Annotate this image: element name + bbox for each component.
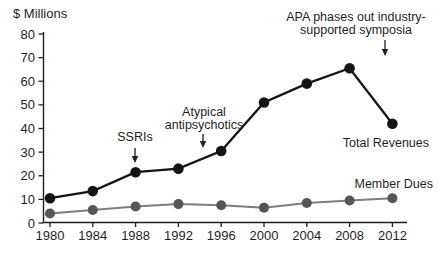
annotation-apa-arrowhead-icon (382, 49, 388, 56)
data-point-total-revenues-1980 (45, 193, 56, 204)
annotation-atypical-text: Atypical (182, 105, 226, 119)
series-label-member-dues: Member Dues (355, 177, 434, 191)
x-tick-label: 2004 (292, 228, 321, 243)
x-tick-label: 1984 (78, 228, 107, 243)
x-tick-label: 2008 (335, 228, 364, 243)
y-axis: 01020304050607080 (21, 27, 44, 231)
y-tick-label: 80 (21, 27, 35, 42)
data-point-member-dues-2000 (259, 203, 269, 213)
y-tick-label: 0 (28, 216, 35, 231)
annotation-ssris-text: SSRIs (117, 130, 152, 144)
data-point-member-dues-1992 (173, 199, 183, 209)
y-axis-title: $ Millions (13, 6, 68, 21)
data-point-member-dues-1996 (216, 200, 226, 210)
x-tick-label: 1996 (207, 228, 236, 243)
y-tick-label: 60 (21, 74, 35, 89)
x-tick-label: 1980 (36, 228, 65, 243)
y-tick-label: 30 (21, 145, 35, 160)
data-point-total-revenues-2008 (344, 63, 355, 74)
y-tick-label: 20 (21, 168, 35, 183)
annotation-apa-text: supported symposia (300, 23, 412, 37)
x-tick-label: 2012 (378, 228, 407, 243)
x-axis: 198019841988199219962000200420082012 (36, 223, 407, 244)
x-tick-label: 1992 (164, 228, 193, 243)
data-point-member-dues-1984 (88, 205, 98, 215)
data-point-total-revenues-1984 (88, 186, 99, 197)
data-point-total-revenues-2012 (387, 118, 398, 129)
annotation-atypical-text: antipsychotics (165, 118, 244, 132)
data-point-member-dues-1988 (131, 201, 141, 211)
revenue-line-chart: $ Millions 01020304050607080 19801984198… (0, 0, 438, 254)
annotation-atypical-arrowhead-icon (200, 141, 206, 148)
data-point-member-dues-2012 (387, 193, 397, 203)
y-tick-label: 10 (21, 192, 35, 207)
data-point-total-revenues-2000 (259, 97, 270, 108)
x-tick-label: 1988 (121, 228, 150, 243)
data-point-total-revenues-1996 (216, 146, 227, 157)
data-point-member-dues-2008 (345, 196, 355, 206)
y-tick-label: 70 (21, 50, 35, 65)
x-tick-label: 2000 (250, 228, 279, 243)
data-point-total-revenues-1992 (173, 163, 184, 174)
data-point-total-revenues-1988 (130, 167, 141, 178)
series-label-total-revenues: Total Revenues (343, 136, 429, 150)
annotation-apa-text: APA phases out industry- (286, 10, 425, 24)
chart-canvas: $ Millions 01020304050607080 19801984198… (0, 0, 438, 254)
annotation-ssris-arrowhead-icon (132, 156, 138, 163)
y-tick-label: 50 (21, 97, 35, 112)
data-point-member-dues-1980 (45, 209, 55, 219)
series-line-total-revenues (50, 68, 392, 198)
data-point-total-revenues-2004 (302, 78, 313, 89)
data-point-member-dues-2004 (302, 198, 312, 208)
y-tick-label: 40 (21, 121, 35, 136)
